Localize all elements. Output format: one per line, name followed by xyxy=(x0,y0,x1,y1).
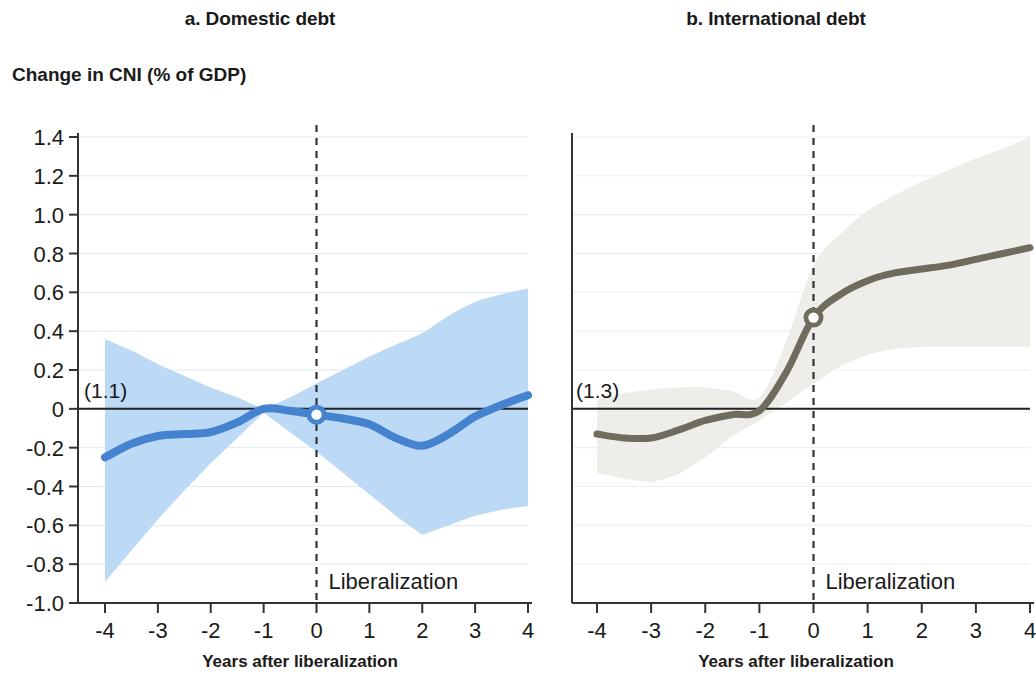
y-tick-label: 0.8 xyxy=(33,242,64,267)
x-tick-label: 0 xyxy=(310,618,322,643)
x-tick-label: -1 xyxy=(254,618,274,643)
y-tick-label: -1.0 xyxy=(26,591,64,616)
x-tick-label: 4 xyxy=(522,618,534,643)
x-tick-label: -4 xyxy=(95,618,115,643)
y-tick-label: 1.0 xyxy=(33,203,64,228)
y-tick-label: 0.6 xyxy=(33,280,64,305)
x-tick-label: 0 xyxy=(807,618,819,643)
x-tick-label: 4 xyxy=(1024,618,1036,643)
x-tick-label: -3 xyxy=(148,618,168,643)
x-tick-label: -2 xyxy=(695,618,715,643)
panel-annotation: (1.1) xyxy=(84,379,127,402)
x-tick-label: 2 xyxy=(416,618,428,643)
y-tick-label: -0.6 xyxy=(26,513,64,538)
x-tick-label: -2 xyxy=(201,618,221,643)
panel-a-plot: -1.0-0.8-0.6-0.4-0.200.20.40.60.81.01.21… xyxy=(26,125,534,643)
liberalization-label: Liberalization xyxy=(329,569,459,594)
y-tick-label: -0.4 xyxy=(26,475,64,500)
x-tick-label: 2 xyxy=(916,618,928,643)
x-tick-label: 3 xyxy=(469,618,481,643)
x-tick-label: -1 xyxy=(750,618,770,643)
y-tick-label: -0.8 xyxy=(26,552,64,577)
event-marker xyxy=(311,409,321,419)
x-tick-label: 1 xyxy=(862,618,874,643)
x-tick-label: -3 xyxy=(641,618,661,643)
panel-b-plot: -4-3-2-101234(1.3)Liberalization xyxy=(572,125,1036,643)
x-tick-label: 3 xyxy=(970,618,982,643)
y-tick-label: -0.2 xyxy=(26,436,64,461)
y-tick-label: 0.2 xyxy=(33,358,64,383)
y-tick-label: 1.4 xyxy=(33,125,64,150)
y-tick-label: 0.4 xyxy=(33,319,64,344)
liberalization-label: Liberalization xyxy=(826,569,956,594)
event-marker xyxy=(808,312,818,322)
y-tick-label: 1.2 xyxy=(33,164,64,189)
panel-annotation: (1.3) xyxy=(576,379,619,402)
x-tick-label: 1 xyxy=(363,618,375,643)
x-tick-label: -4 xyxy=(587,618,607,643)
y-tick-label: 0 xyxy=(52,397,64,422)
chart-svg: -1.0-0.8-0.6-0.4-0.200.20.40.60.81.01.21… xyxy=(0,0,1036,679)
